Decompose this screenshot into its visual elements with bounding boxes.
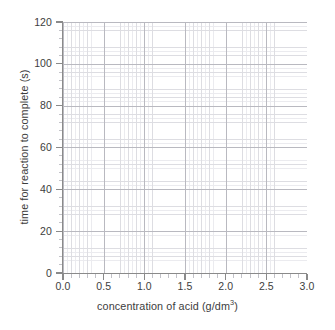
y-minor-tick-mark xyxy=(59,88,63,89)
x-axis-title: concentration of acid (g/dm3) xyxy=(0,300,335,312)
y-minor-tick-mark xyxy=(59,122,63,123)
x-minor-tick-mark xyxy=(71,274,72,278)
y-minor-tick-mark xyxy=(59,247,63,248)
x-minor-tick-mark xyxy=(152,274,153,278)
y-minor-tick-mark xyxy=(59,38,63,39)
x-tick-label: 2.5 xyxy=(246,281,286,292)
y-minor-tick-mark xyxy=(59,55,63,56)
y-tick-mark xyxy=(56,231,62,232)
y-minor-tick-mark xyxy=(59,97,63,98)
y-tick-mark xyxy=(56,105,62,106)
x-minor-tick-mark xyxy=(95,274,96,278)
y-minor-tick-mark xyxy=(59,130,63,131)
x-minor-tick-mark xyxy=(176,274,177,278)
x-minor-tick-mark xyxy=(274,274,275,278)
x-minor-tick-mark xyxy=(258,274,259,278)
y-tick-mark xyxy=(56,21,62,22)
y-minor-tick-mark xyxy=(59,197,63,198)
y-minor-tick-mark xyxy=(59,214,63,215)
x-minor-tick-mark xyxy=(209,274,210,278)
x-minor-tick-mark xyxy=(282,274,283,278)
x-minor-tick-mark xyxy=(241,274,242,278)
x-minor-tick-mark xyxy=(250,274,251,278)
x-minor-tick-mark xyxy=(79,274,80,278)
x-minor-tick-mark xyxy=(87,274,88,278)
x-tick-label: 0.5 xyxy=(84,281,124,292)
y-axis-title: time for reaction to complete (s) xyxy=(16,22,32,273)
x-minor-tick-mark xyxy=(119,274,120,278)
chart-figure: 120100806040200 0.00.51.01.52.02.53.0 ti… xyxy=(0,0,335,330)
x-minor-tick-mark xyxy=(136,274,137,278)
x-minor-tick-mark xyxy=(298,274,299,278)
y-minor-tick-mark xyxy=(59,155,63,156)
y-minor-tick-mark xyxy=(59,139,63,140)
y-tick-mark xyxy=(56,147,62,148)
x-minor-tick-mark xyxy=(193,274,194,278)
y-minor-tick-mark xyxy=(59,80,63,81)
major-gridlines xyxy=(63,22,307,273)
x-tick-label: 3.0 xyxy=(287,281,327,292)
plot-area xyxy=(63,22,307,273)
x-axis-title-tail: ) xyxy=(234,300,238,312)
y-minor-tick-mark xyxy=(59,47,63,48)
y-minor-tick-mark xyxy=(59,222,63,223)
x-minor-tick-mark xyxy=(290,274,291,278)
y-tick-mark xyxy=(56,63,62,64)
y-minor-tick-mark xyxy=(59,164,63,165)
y-tick-mark xyxy=(56,189,62,190)
y-minor-tick-mark xyxy=(59,114,63,115)
x-tick-label: 1.0 xyxy=(124,281,164,292)
y-minor-tick-mark xyxy=(59,206,63,207)
y-tick-mark xyxy=(56,272,62,273)
x-minor-tick-mark xyxy=(233,274,234,278)
y-minor-tick-mark xyxy=(59,72,63,73)
x-tick-label: 2.0 xyxy=(206,281,246,292)
x-minor-tick-mark xyxy=(111,274,112,278)
x-minor-tick-mark xyxy=(128,274,129,278)
y-minor-tick-mark xyxy=(59,172,63,173)
y-minor-tick-mark xyxy=(59,30,63,31)
x-tick-label: 1.5 xyxy=(165,281,205,292)
x-minor-tick-mark xyxy=(201,274,202,278)
x-minor-tick-mark xyxy=(160,274,161,278)
y-minor-tick-mark xyxy=(59,180,63,181)
x-minor-tick-mark xyxy=(217,274,218,278)
y-axis-line xyxy=(62,21,63,274)
y-minor-tick-mark xyxy=(59,264,63,265)
y-minor-tick-mark xyxy=(59,239,63,240)
x-tick-label: 0.0 xyxy=(43,281,83,292)
x-axis-title-text: concentration of acid (g/dm xyxy=(97,300,230,312)
y-minor-tick-mark xyxy=(59,256,63,257)
x-minor-tick-mark xyxy=(168,274,169,278)
